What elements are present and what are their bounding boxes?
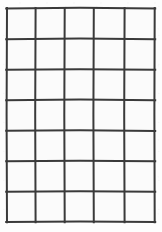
grid-cell xyxy=(65,192,94,223)
grid-cell xyxy=(125,100,156,131)
grid-cell xyxy=(36,100,65,131)
grid-cell xyxy=(125,39,156,70)
grid-cell xyxy=(65,131,94,162)
grid-cell xyxy=(65,8,94,39)
grid-cell xyxy=(125,161,156,192)
grid-cell xyxy=(65,100,94,131)
grid-cell xyxy=(7,131,36,162)
grid-line-horizontal xyxy=(6,130,155,131)
grid-cell xyxy=(7,8,36,39)
grid-cell xyxy=(125,70,156,101)
grid-drawing xyxy=(0,0,162,232)
grid-cell xyxy=(94,8,125,39)
grid-line-horizontal xyxy=(6,191,155,192)
grid-line-horizontal xyxy=(6,221,155,222)
grid-cell xyxy=(36,131,65,162)
grid-cell xyxy=(36,39,65,70)
grid-cell xyxy=(125,131,156,162)
grid-cell xyxy=(65,70,94,101)
grid-cell xyxy=(36,161,65,192)
grid-cell-fills xyxy=(7,8,156,222)
grid-cell xyxy=(7,192,36,223)
grid-line-horizontal xyxy=(6,69,155,70)
grid-line-horizontal xyxy=(6,39,155,40)
grid-figure xyxy=(0,0,162,232)
grid-cell xyxy=(65,39,94,70)
grid-cell xyxy=(125,8,156,39)
grid-line-horizontal xyxy=(6,161,155,162)
grid-cell xyxy=(36,70,65,101)
grid-line-horizontal xyxy=(6,8,155,9)
grid-cell xyxy=(94,39,125,70)
grid-cell xyxy=(7,39,36,70)
grid-cell xyxy=(94,100,125,131)
grid-cell xyxy=(7,100,36,131)
grid-line-horizontal xyxy=(6,100,155,101)
grid-cell xyxy=(65,161,94,192)
grid-cell xyxy=(94,131,125,162)
grid-cell xyxy=(7,70,36,101)
grid-cell xyxy=(125,192,156,223)
grid-cell xyxy=(36,192,65,223)
grid-cell xyxy=(36,8,65,39)
grid-cell xyxy=(94,192,125,223)
grid-cell xyxy=(94,161,125,192)
grid-cell xyxy=(7,161,36,192)
grid-cell xyxy=(94,70,125,101)
